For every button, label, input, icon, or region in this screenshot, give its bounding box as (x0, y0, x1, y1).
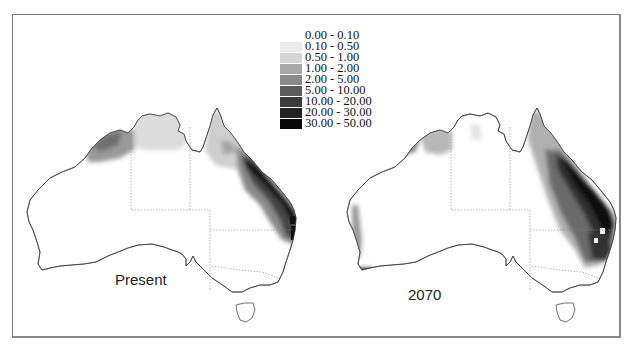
panel-label-2070: 2070 (408, 286, 441, 303)
legend-item: 30.00 - 50.00 (280, 118, 400, 129)
legend-swatch (280, 108, 302, 118)
map-2070: 2070 (347, 108, 616, 322)
legend: 0.00 - 0.100.10 - 0.500.50 - 1.001.00 - … (280, 30, 400, 129)
legend-swatch (280, 75, 302, 85)
tasmania-coastline (556, 303, 575, 322)
legend-swatch (280, 86, 302, 96)
legend-label: 30.00 - 50.00 (305, 116, 372, 130)
tasmania-coastline (236, 303, 255, 322)
panel-label-present: Present (115, 271, 168, 288)
map-present: Present (27, 108, 298, 322)
legend-swatch (280, 42, 302, 52)
legend-swatch (280, 64, 302, 74)
legend-swatch (280, 97, 302, 107)
legend-swatch (280, 31, 302, 41)
legend-swatch (280, 119, 302, 129)
legend-swatch (280, 53, 302, 63)
